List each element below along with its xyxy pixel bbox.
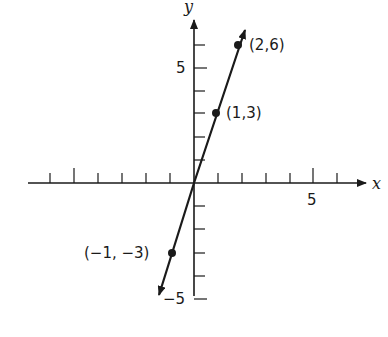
data-point-1-3 (212, 109, 220, 117)
data-line-lower (159, 183, 194, 295)
data-point-neg1-neg3 (168, 249, 176, 257)
y-tick-label-neg5: −5 (163, 290, 185, 308)
y-axis-label: y (183, 0, 194, 16)
data-point-2-6 (234, 41, 242, 49)
cartesian-plot: x y 5 5 −5 (2,6) (1,3) (−1, −3) (0, 0, 388, 337)
point-label-neg1-neg3: (−1, −3) (84, 244, 149, 262)
y-tick-label-5: 5 (176, 59, 186, 77)
point-label-2-6: (2,6) (249, 36, 285, 54)
y-axis-ticks (194, 45, 207, 299)
x-tick-label-5: 5 (307, 191, 317, 209)
x-axis-label: x (372, 174, 381, 193)
point-label-1-3: (1,3) (226, 104, 262, 122)
